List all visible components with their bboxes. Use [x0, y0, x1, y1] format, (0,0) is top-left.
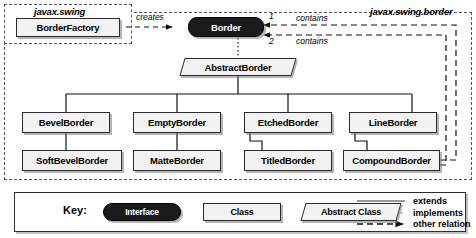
edge-label-contains-1: contains [296, 13, 328, 23]
edge-contains-2 [264, 35, 446, 165]
node-softbevelborder-label: SoftBevelBorder [36, 155, 108, 166]
node-compoundborder-label: CompoundBorder [352, 155, 430, 166]
node-borderfactory-label: BorderFactory [37, 22, 100, 33]
edge-label-contains-2: contains [296, 36, 328, 46]
node-border[interactable]: Border [188, 17, 264, 37]
node-matteborder[interactable]: MatteBorder [133, 150, 221, 171]
node-emptyborder-label: EmptyBorder [148, 117, 206, 128]
node-titledborder-label: TitledBorder [261, 155, 315, 166]
legend-panel: Key: Interface Class Abstract Class exte… [14, 192, 466, 232]
node-border-label: Border [211, 22, 241, 33]
class-diagram: javax.swing javax.swing.border Border (d… [0, 0, 476, 238]
node-matteborder-label: MatteBorder [150, 155, 204, 166]
multiplicity-2: 2 [269, 36, 274, 46]
node-titledborder[interactable]: TitledBorder [244, 150, 332, 171]
node-bevelborder[interactable]: BevelBorder [22, 112, 110, 133]
node-borderfactory[interactable]: BorderFactory [16, 18, 120, 37]
legend-abstract-sample: Abstract Class [303, 203, 399, 221]
node-lineborder[interactable]: LineBorder [349, 112, 437, 133]
legend-class-label: Class [230, 207, 253, 217]
legend-label-extends: extends [413, 196, 447, 206]
legend-interface-label: Interface [125, 207, 159, 217]
edge-contains-1 [264, 25, 456, 160]
node-lineborder-label: LineBorder [369, 117, 418, 128]
node-emptyborder[interactable]: EmptyBorder [133, 112, 221, 133]
node-bevelborder-label: BevelBorder [39, 117, 93, 128]
node-softbevelborder[interactable]: SoftBevelBorder [22, 150, 122, 171]
node-compoundborder[interactable]: CompoundBorder [343, 150, 440, 171]
node-etchedborder[interactable]: EtchedBorder [244, 112, 332, 133]
legend-interface-sample: Interface [103, 203, 181, 221]
edge-abstractborder-bus [66, 76, 412, 112]
legend-label-other-relation: other relation [413, 219, 471, 229]
node-abstractborder[interactable]: AbstractBorder [182, 58, 294, 76]
legend-abstract-label: Abstract Class [321, 207, 381, 217]
node-abstractborder-label: AbstractBorder [205, 62, 272, 73]
legend-class-sample: Class [203, 203, 281, 221]
edge-line-compound [355, 133, 367, 150]
edge-label-creates: creates [136, 12, 164, 22]
node-etchedborder-label: EtchedBorder [258, 117, 318, 128]
legend-label-implements: implements [413, 208, 463, 218]
edge-etched-titled [250, 133, 262, 150]
multiplicity-1: 1 [269, 11, 274, 21]
legend-title: Key: [63, 204, 87, 216]
